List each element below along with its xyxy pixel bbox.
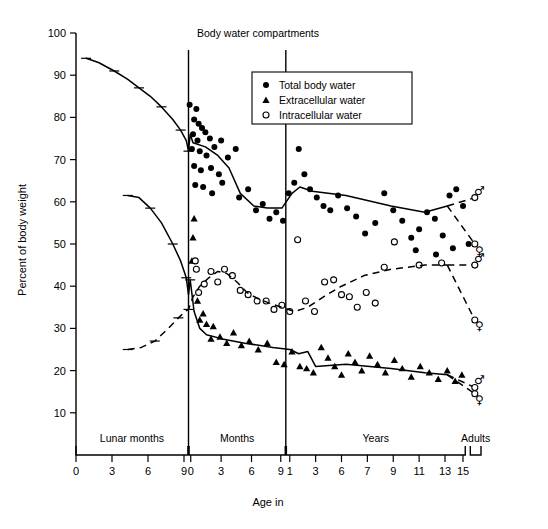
data-point (327, 207, 333, 213)
data-point (192, 182, 198, 188)
data-point (381, 190, 387, 196)
data-point (197, 148, 203, 154)
data-point (301, 171, 307, 177)
x-tick-label: 1 (287, 465, 293, 477)
data-point (195, 138, 201, 144)
data-point (453, 186, 459, 192)
x-segment-label: Years (363, 432, 389, 444)
x-tick-label: 0 (73, 465, 79, 477)
data-point (303, 298, 309, 304)
data-point (362, 230, 368, 236)
male-symbol: ♂ (474, 184, 485, 198)
data-point (372, 220, 378, 226)
data-point (237, 287, 243, 293)
y-tick-label: 40 (54, 280, 66, 292)
data-point (291, 180, 297, 186)
data-point (331, 277, 337, 283)
x-tick-label: 7 (364, 465, 370, 477)
chart-title: Body water compartments (197, 27, 319, 39)
data-point (236, 195, 242, 201)
x-tick-label: 3 (313, 465, 319, 477)
x-tick-label: 15 (457, 465, 469, 477)
x-tick-label: 0 (188, 465, 194, 477)
y-axis-title: Percent of body weight (16, 184, 28, 296)
data-point (215, 279, 221, 285)
y-tick-label: 100 (48, 27, 66, 39)
female-symbol: ♀ (475, 393, 484, 407)
data-point (207, 136, 213, 142)
x-axis-title: Age in (252, 496, 283, 508)
x-tick-label: 6 (338, 465, 344, 477)
data-point (321, 203, 327, 209)
data-point (408, 235, 414, 241)
data-point (200, 184, 206, 190)
data-point (296, 146, 302, 152)
data-point (466, 241, 472, 247)
legend-marker-filled-circle (263, 82, 269, 88)
y-tick-label: 90 (54, 69, 66, 81)
data-point (460, 203, 466, 209)
y-tick-label: 20 (54, 365, 66, 377)
y-tick-label: 50 (54, 238, 66, 250)
data-point (450, 245, 456, 251)
data-point (208, 268, 214, 274)
data-point (271, 306, 277, 312)
data-point (416, 226, 422, 232)
data-point (433, 252, 439, 258)
y-tick-label: 80 (54, 111, 66, 123)
data-point (260, 201, 266, 207)
x-tick-label: 11 (413, 465, 424, 477)
legend-label: Total body water (279, 79, 356, 91)
x-segment-label: Adults (461, 432, 490, 444)
data-point (253, 207, 259, 213)
x-segment-label: Lunar months (100, 432, 164, 444)
x-tick-label: 6 (145, 465, 151, 477)
data-point (225, 154, 231, 160)
data-point (187, 102, 193, 108)
data-point (413, 247, 419, 253)
data-point (314, 195, 320, 201)
data-point (245, 186, 251, 192)
data-point (233, 146, 239, 152)
data-point (211, 144, 217, 150)
data-point (339, 292, 345, 298)
chart-svg: 102030405060708090100 Percent of body we… (0, 0, 548, 529)
data-point (439, 260, 445, 266)
data-point (201, 281, 207, 287)
x-tick-label: 9 (390, 465, 396, 477)
data-point (363, 290, 369, 296)
data-point (280, 218, 286, 224)
x-tick-label: 3 (109, 465, 115, 477)
data-point (191, 117, 197, 123)
chart-figure: 102030405060708090100 Percent of body we… (0, 0, 548, 529)
chart-legend: Total body waterExtracellular waterIntra… (252, 72, 412, 124)
x-segment-label: Months (220, 432, 254, 444)
data-point (222, 266, 228, 272)
x-tick-label: 13 (439, 465, 451, 477)
y-tick-label: 60 (54, 196, 66, 208)
data-point (204, 152, 210, 158)
data-point (381, 264, 387, 270)
data-point (208, 165, 214, 171)
data-point (209, 190, 215, 196)
data-point (219, 180, 225, 186)
data-point (191, 163, 197, 169)
data-point (295, 237, 301, 243)
data-point (202, 129, 208, 135)
data-point (322, 279, 328, 285)
y-tick-label: 70 (54, 154, 66, 166)
male-symbol: ♂ (474, 373, 485, 387)
data-point (193, 106, 199, 112)
data-point (354, 304, 360, 310)
data-point (196, 290, 202, 296)
y-tick-label: 10 (54, 407, 66, 419)
x-tick-label: 3 (218, 465, 224, 477)
data-point (273, 209, 279, 215)
data-point (353, 214, 359, 220)
data-point (267, 216, 273, 222)
legend-label: Intracellular water (279, 109, 362, 121)
legend-marker-open-circle (263, 112, 269, 118)
x-tick-label: 9 (278, 465, 284, 477)
data-point (399, 218, 405, 224)
data-point (216, 171, 222, 177)
